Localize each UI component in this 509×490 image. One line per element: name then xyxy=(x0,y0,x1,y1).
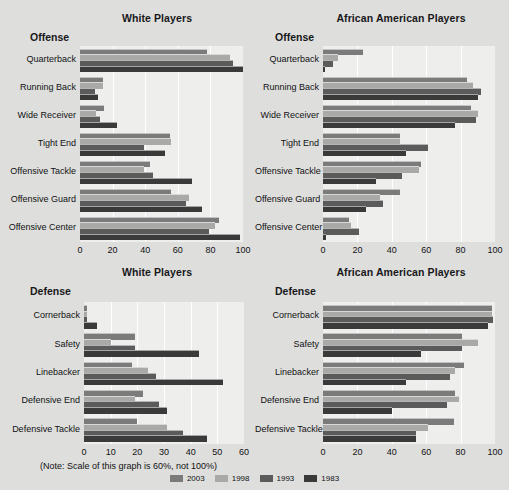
bar xyxy=(323,150,406,157)
panel-title: White Players xyxy=(62,12,252,24)
category-label: Wide Receiver xyxy=(255,110,319,120)
bar xyxy=(80,206,202,213)
bar xyxy=(323,234,326,241)
x-tick-label: 100 xyxy=(487,447,502,457)
bar xyxy=(84,350,199,357)
chart-legend: 2003199819931983 xyxy=(0,474,509,483)
x-tick-label: 20 xyxy=(352,245,362,255)
plot-canvas xyxy=(84,302,244,444)
panel-title: African American Players xyxy=(301,266,501,278)
bar xyxy=(323,407,392,414)
bar-group xyxy=(80,130,243,158)
category-label: Wide Receiver xyxy=(2,110,76,120)
category-label: Cornerback xyxy=(2,310,80,320)
bar xyxy=(80,122,117,129)
chart-panel-white-offense: White PlayersOffenseQuarterbackRunning B… xyxy=(2,2,255,258)
x-tick-label: 0 xyxy=(77,245,82,255)
category-label: Defensive Tackle xyxy=(255,424,319,434)
x-tick-label: 0 xyxy=(81,447,86,457)
bar-group xyxy=(84,387,244,415)
group-title: Offense xyxy=(30,31,69,43)
bar xyxy=(84,322,97,329)
x-tick-label: 40 xyxy=(387,245,397,255)
legend-swatch-icon xyxy=(170,475,183,482)
bar xyxy=(323,350,421,357)
x-tick-label: 60 xyxy=(421,447,431,457)
bar xyxy=(323,435,416,442)
category-label: Quarterback xyxy=(255,54,319,64)
legend-item-1998[interactable]: 1998 xyxy=(215,474,250,483)
bar xyxy=(323,322,488,329)
bar xyxy=(80,234,240,241)
x-tick-label: 50 xyxy=(212,447,222,457)
category-label: Offensive Center xyxy=(2,222,76,232)
legend-label: 1998 xyxy=(232,474,250,483)
bar xyxy=(323,379,406,386)
x-tick-label: 80 xyxy=(205,245,215,255)
x-tick-label: 0 xyxy=(320,245,325,255)
plot-canvas xyxy=(323,46,495,242)
category-label: Defensive Tackle xyxy=(2,424,80,434)
category-label: Offensive Center xyxy=(255,222,319,232)
bar xyxy=(84,407,167,414)
category-label: Offensive Guard xyxy=(2,194,76,204)
bar-group xyxy=(323,359,495,387)
chart-panel-aa-defense: African American PlayersDefenseCornerbac… xyxy=(255,258,508,464)
bar-group xyxy=(323,387,495,415)
bar-group xyxy=(80,158,243,186)
category-label: Offensive Guard xyxy=(255,194,319,204)
bar-group xyxy=(323,130,495,158)
legend-swatch-icon xyxy=(215,475,228,482)
plot-canvas xyxy=(80,46,243,242)
plot-area-white-offense xyxy=(80,46,243,242)
category-label: Offensive Tackle xyxy=(255,166,319,176)
panel-title: African American Players xyxy=(301,12,501,24)
legend-item-2003[interactable]: 2003 xyxy=(170,474,205,483)
group-title: Defense xyxy=(30,285,71,297)
bar-group xyxy=(323,330,495,358)
bar-group xyxy=(84,359,244,387)
legend-label: 1983 xyxy=(321,474,339,483)
bar xyxy=(80,150,165,157)
category-label: Running Back xyxy=(255,82,319,92)
bar xyxy=(323,206,366,213)
group-title: Offense xyxy=(275,31,314,43)
category-label: Tight End xyxy=(2,138,76,148)
bar xyxy=(80,66,243,73)
x-tick-label: 80 xyxy=(456,245,466,255)
bar-group xyxy=(323,302,495,330)
legend-item-1983[interactable]: 1983 xyxy=(304,474,339,483)
bar-group xyxy=(323,158,495,186)
plot-area-aa-defense xyxy=(323,302,495,444)
panel-title: White Players xyxy=(62,266,252,278)
group-title: Defense xyxy=(275,285,316,297)
bar-group xyxy=(80,74,243,102)
bar xyxy=(323,66,325,73)
bar xyxy=(323,228,359,235)
chart-panel-white-defense: White PlayersDefenseCornerbackSafetyLine… xyxy=(2,258,255,464)
x-tick-label: 60 xyxy=(421,245,431,255)
x-tick-label: 100 xyxy=(487,245,502,255)
x-tick-label: 60 xyxy=(173,245,183,255)
category-label: Linebacker xyxy=(255,367,319,377)
x-tick-label: 100 xyxy=(235,245,250,255)
bar xyxy=(80,94,98,101)
x-tick-label: 80 xyxy=(456,447,466,457)
x-tick-label: 60 xyxy=(239,447,249,457)
bar-group xyxy=(84,416,244,444)
bar-group xyxy=(80,46,243,74)
legend-item-1993[interactable]: 1993 xyxy=(260,474,295,483)
bar-group xyxy=(80,102,243,130)
category-label: Quarterback xyxy=(2,54,76,64)
bar xyxy=(323,178,376,185)
chart-panel-aa-offense: African American PlayersOffenseQuarterba… xyxy=(255,2,508,258)
category-label: Defensive End xyxy=(255,395,319,405)
category-label: Cornerback xyxy=(255,310,319,320)
bar-group xyxy=(323,186,495,214)
scale-note: (Note: Scale of this graph is 60%, not 1… xyxy=(2,461,255,471)
x-tick-label: 10 xyxy=(106,447,116,457)
category-label: Tight End xyxy=(255,138,319,148)
category-label: Linebacker xyxy=(2,367,80,377)
x-tick-label: 40 xyxy=(186,447,196,457)
category-label: Running Back xyxy=(2,82,76,92)
